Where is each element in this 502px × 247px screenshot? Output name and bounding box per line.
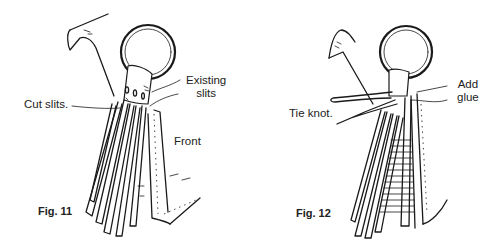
add-glue-label-line1: Add — [457, 78, 479, 91]
figure-caption: Fig. 11 — [38, 205, 72, 217]
front-label: Front — [174, 135, 201, 148]
add-glue-label: Add glue — [457, 78, 479, 104]
add-glue-label-line2: glue — [457, 91, 479, 104]
tassel-ring-illustration-fig12 — [251, 0, 502, 247]
existing-slits-label-line1: Existing — [186, 74, 226, 87]
existing-slits-label: Existing slits — [186, 74, 226, 100]
figure-caption: Fig. 12 — [296, 207, 331, 219]
existing-slits-label-line2: slits — [186, 87, 226, 100]
tie-knot-label: Tie knot. — [289, 107, 333, 120]
cut-slits-label: Cut slits. — [24, 98, 68, 111]
ring-icon — [380, 26, 432, 78]
figure-12: Tie knot. Add glue Fig. 12 — [251, 0, 502, 247]
figure-11: Cut slits. Existing slits Front Fig. 11 — [0, 0, 251, 247]
